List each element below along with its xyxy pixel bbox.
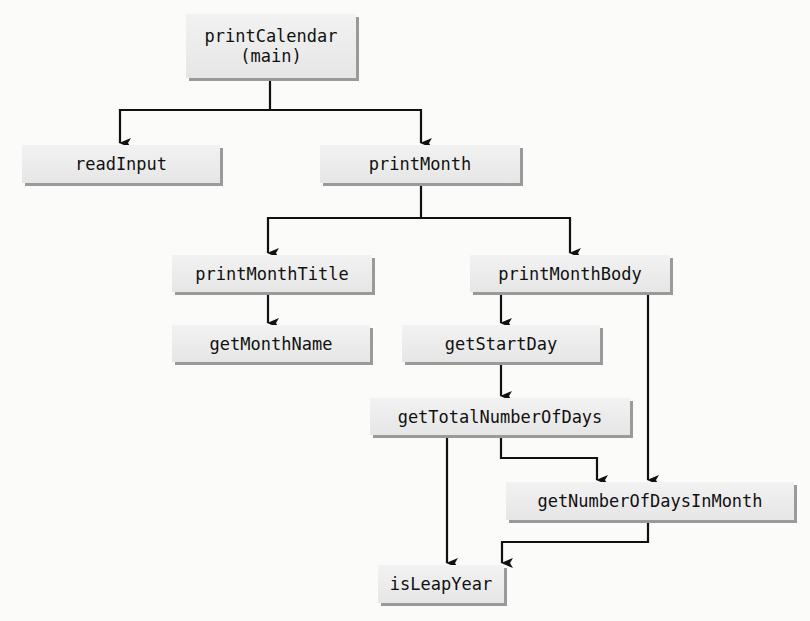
node-getStartDay: getStartDay: [402, 325, 600, 362]
node-label: getNumberOfDaysInMonth: [537, 491, 762, 511]
node-label: printMonthBody: [498, 264, 641, 284]
node-label: printMonth: [369, 154, 471, 174]
node-getMonthName: getMonthName: [172, 325, 370, 362]
node-getTotalNumberOfDays: getTotalNumberOfDays: [370, 398, 630, 435]
edge-printCalendar-readInput: [120, 80, 270, 143]
node-label: printMonthTitle: [195, 264, 349, 284]
node-printMonthTitle: printMonthTitle: [172, 255, 372, 292]
edge-printCalendar-printMonth: [270, 110, 421, 143]
node-getNumberOfDaysInMonth: getNumberOfDaysInMonth: [506, 482, 794, 520]
node-label: getStartDay: [445, 334, 558, 354]
node-label: getMonthName: [210, 334, 333, 354]
node-label: isLeapYear: [390, 574, 492, 594]
edge-printMonth-printMonthTitle: [268, 185, 421, 253]
edge-getNumberOfDaysInMonth-isLeapYear: [502, 522, 648, 563]
node-printMonthBody: printMonthBody: [470, 255, 670, 292]
node-printCalendar: printCalendar (main): [186, 14, 356, 78]
node-label: readInput: [75, 154, 167, 174]
edge-getTotalNumberOfDays-getNumberOfDaysInMonth: [501, 437, 597, 480]
node-readInput: readInput: [22, 145, 220, 183]
node-label: getTotalNumberOfDays: [398, 407, 603, 427]
node-label: printCalendar (main): [204, 26, 337, 66]
node-isLeapYear: isLeapYear: [378, 565, 504, 603]
node-printMonth: printMonth: [320, 145, 520, 183]
diagram-canvas: printCalendar (main) readInput printMont…: [0, 0, 810, 621]
edges-layer: [0, 0, 810, 621]
edge-printMonth-printMonthBody: [421, 218, 570, 253]
